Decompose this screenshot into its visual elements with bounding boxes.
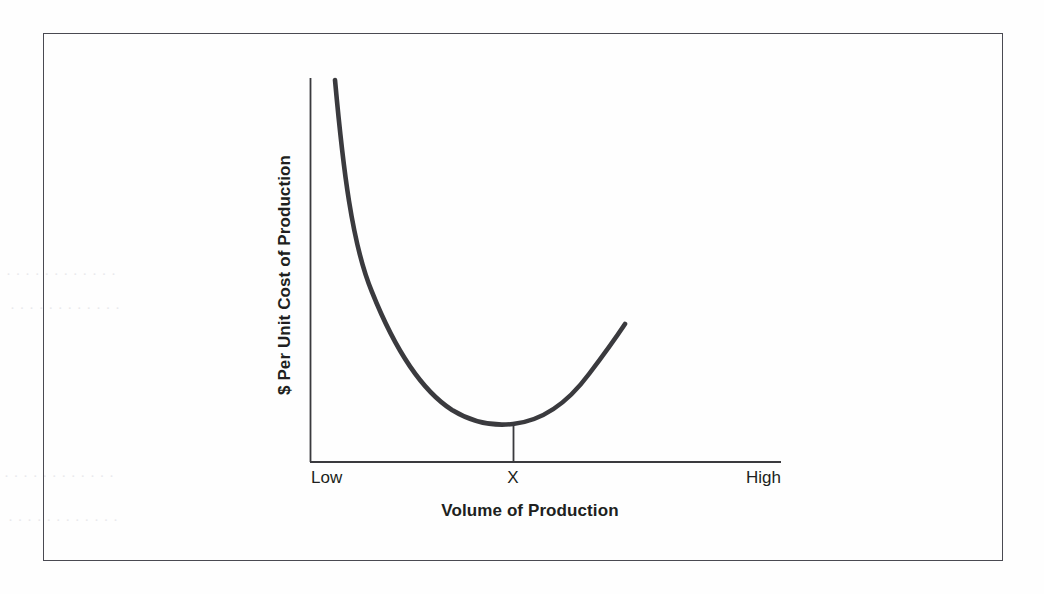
x-axis-title: Volume of Production <box>441 501 618 521</box>
x-tick-label-high: High <box>746 468 781 488</box>
y-axis-title: $ Per Unit Cost of Production <box>275 155 295 395</box>
figure-page: · · · · · · · · · · · · · · · · · · · · … <box>0 0 1044 594</box>
x-tick-label-low: Low <box>311 468 342 488</box>
cost-curve <box>335 80 625 425</box>
x-tick-label-x: X <box>507 468 518 488</box>
